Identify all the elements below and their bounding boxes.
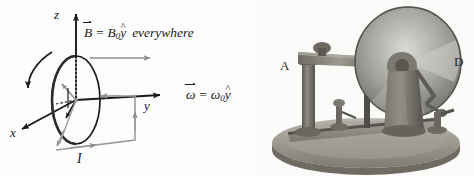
right-binding-post-base: [427, 126, 447, 134]
disk-center-vector-up-left: [62, 84, 76, 100]
apparatus-photograph: A D: [258, 0, 474, 176]
left-support-post: [302, 62, 315, 132]
current-label: I: [77, 152, 82, 166]
b-equals-sign: =: [95, 25, 104, 40]
omega-equation: ω=ω0^y: [186, 88, 231, 103]
figure-canvas: z y x I B=B0^yeverywhere ω=ω0^y: [0, 0, 474, 176]
omega-equals-sign: =: [199, 87, 208, 102]
b-magnitude-letter: B: [107, 25, 115, 40]
omega-unit-vector: ^y: [225, 88, 231, 102]
arm-thumbscrew-shaft: [318, 48, 326, 56]
omega-vector-letter: ω: [186, 87, 196, 102]
y-axis-label: y: [144, 99, 150, 112]
b-field-equation: B=B0^yeverywhere: [84, 26, 194, 41]
right-post-highlight: [384, 71, 408, 132]
b-vector-symbol: B: [84, 26, 92, 40]
current-arrow-bottom: [70, 145, 96, 148]
omega-vector-symbol: ω: [186, 88, 196, 102]
b-hat-symbol: ^: [120, 23, 126, 30]
left-binding-post: [336, 104, 342, 126]
omega-vector-arrow-bar: [185, 84, 195, 85]
x-axis-label: x: [10, 126, 16, 139]
label-d: D: [454, 54, 463, 70]
omega-hat-symbol: ^: [225, 85, 231, 92]
b-vector-letter: B: [84, 25, 92, 40]
right-post-foot: [382, 125, 426, 137]
apparatus-svg: [258, 0, 474, 176]
b-qualifier-text: everywhere: [132, 25, 194, 40]
rotation-direction-arrow: [28, 52, 52, 88]
left-binding-post-head: [333, 99, 345, 107]
b-unit-vector: ^y: [120, 26, 126, 40]
z-axis-label: z: [54, 8, 59, 21]
left-post-foot: [295, 127, 321, 137]
omega-magnitude-letter: ω: [211, 87, 221, 102]
vector-diagram: z y x I B=B0^yeverywhere ω=ω0^y: [0, 0, 272, 176]
b-vector-arrow-bar: [83, 22, 91, 23]
left-binding-post-base: [330, 123, 348, 131]
label-a: A: [280, 58, 289, 74]
